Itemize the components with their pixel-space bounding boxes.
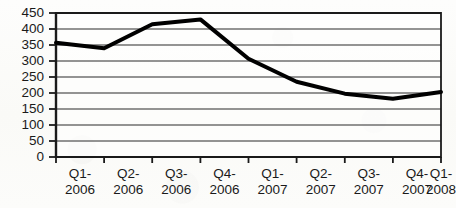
plot-background bbox=[56, 13, 441, 157]
line-chart: 450 400 350 300 250 200 150 100 50 0 Q1-… bbox=[0, 0, 456, 208]
y-tick-label: 100 bbox=[21, 117, 44, 132]
x-tick-label-group: Q4- 2006 bbox=[209, 166, 239, 197]
x-tick-label-quarter: Q1- bbox=[430, 166, 453, 181]
x-tick-label-quarter: Q4- bbox=[406, 166, 429, 181]
chart-screenshot: 450 400 350 300 250 200 150 100 50 0 Q1-… bbox=[0, 0, 456, 208]
x-tick-label-year: 2007 bbox=[306, 182, 336, 197]
y-tick-label: 250 bbox=[21, 69, 44, 84]
x-tick-label-quarter: Q1- bbox=[69, 166, 92, 181]
x-tick-label-group: Q1- 2006 bbox=[65, 166, 95, 197]
x-tick-label-group: Q1- 2007 bbox=[258, 166, 288, 197]
y-tick-label: 150 bbox=[21, 101, 44, 116]
x-tick-label-group: Q3- 2006 bbox=[161, 166, 191, 197]
x-tick-label-quarter: Q3- bbox=[165, 166, 188, 181]
x-tick-label-quarter: Q2- bbox=[117, 166, 140, 181]
y-tick-labels: 450 400 350 300 250 200 150 100 50 0 bbox=[21, 5, 44, 164]
x-tick-label-year: 2006 bbox=[113, 182, 143, 197]
x-tick-label-year: 2006 bbox=[65, 182, 95, 197]
x-tick-label-quarter: Q3- bbox=[358, 166, 381, 181]
y-tick-label: 300 bbox=[21, 53, 44, 68]
y-tick-label: 200 bbox=[21, 85, 44, 100]
y-tick-label: 350 bbox=[21, 37, 44, 52]
y-tick-label: 400 bbox=[21, 21, 44, 36]
x-tick-label-group: Q2- 2006 bbox=[113, 166, 143, 197]
y-tick-label: 50 bbox=[29, 133, 44, 148]
x-tick-label-year: 2007 bbox=[258, 182, 288, 197]
x-tick-labels: Q1- 2006 Q2- 2006 Q3- 2006 Q4- 2006 Q1- … bbox=[65, 166, 456, 197]
y-tick-label: 450 bbox=[21, 5, 44, 20]
x-tick-label-group: Q2- 2007 bbox=[306, 166, 336, 197]
x-tick-label-quarter: Q4- bbox=[213, 166, 236, 181]
x-tick-label-quarter: Q1- bbox=[261, 166, 284, 181]
x-tick-label-year: 2008 bbox=[426, 182, 456, 197]
x-tick-label-year: 2007 bbox=[354, 182, 384, 197]
x-tick-label-quarter: Q2- bbox=[309, 166, 332, 181]
x-tick-label-year: 2006 bbox=[161, 182, 191, 197]
y-tick-label: 0 bbox=[36, 149, 44, 164]
x-tick-label-group: Q1- 2008 bbox=[426, 166, 456, 197]
x-tick-label-group: Q3- 2007 bbox=[354, 166, 384, 197]
x-tick-label-year: 2006 bbox=[209, 182, 239, 197]
